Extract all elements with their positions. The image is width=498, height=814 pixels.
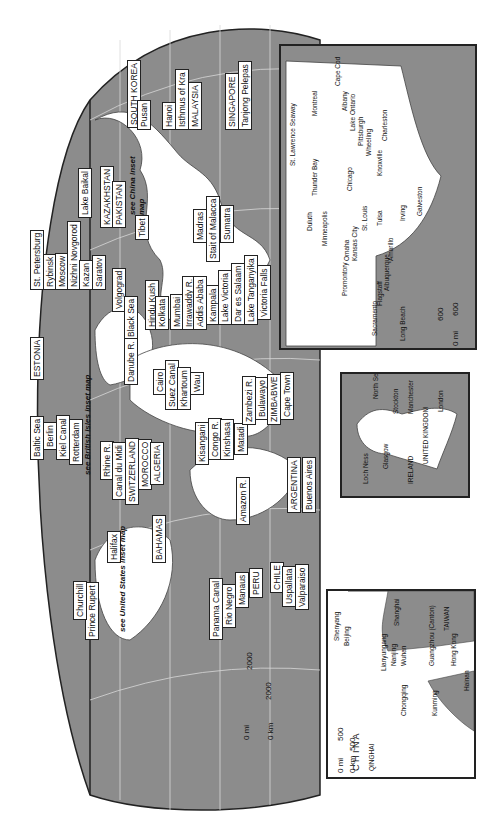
uk-label-stockton: Stockton bbox=[392, 389, 399, 414]
label-kiel-canal: Kiel Canal bbox=[56, 415, 70, 460]
label-algeria: ALGERIA bbox=[150, 442, 164, 485]
us-label-kansas-city: Kansas City bbox=[351, 226, 358, 261]
label-malaysia: MALAYSIA bbox=[188, 82, 202, 130]
china-label-shanghai: Shanghai bbox=[393, 599, 400, 626]
china-label-taiwan: TAIWAN bbox=[443, 606, 450, 631]
label-rotterdam: Rotterdam bbox=[69, 419, 83, 465]
china-label-shenyang: Shenyang bbox=[333, 612, 340, 641]
uk-inset-map: North Sea Stockton Manchester London UNI… bbox=[340, 372, 470, 498]
us-label-lake-ontario: Lake Ontario bbox=[349, 94, 356, 131]
us-scale-mi-value: 600 bbox=[436, 308, 445, 321]
label-cape-town: Cape Town bbox=[280, 372, 294, 420]
label-matadi: Matadi bbox=[234, 423, 248, 455]
label-victoria-falls: Victoria Falls bbox=[257, 266, 271, 321]
china-label-beijing: Beijing bbox=[343, 626, 350, 646]
us-label-montreal: Montreal bbox=[311, 91, 318, 116]
us-label-knoxville: Knoxville bbox=[376, 150, 383, 176]
label-kisangani: Kisangani bbox=[195, 422, 209, 465]
china-label-nanjing: Nanjing bbox=[390, 644, 397, 666]
label-canal-du-midi: Canal du Midi bbox=[112, 442, 126, 500]
us-label-charleston: Charleston bbox=[381, 110, 388, 141]
china-scale-mi-zero: 0 mi bbox=[336, 758, 345, 773]
label-lake-tanganyika: Lake Tanganyika bbox=[244, 255, 258, 325]
label-prince-rupert: Prince Rupert bbox=[85, 582, 99, 640]
us-label-st-lawrence: St. Lawrence Seaway bbox=[289, 103, 296, 166]
label-stait-of-malacca: Stait of Malacca bbox=[206, 196, 220, 262]
label-hanoi: Hanoi bbox=[162, 102, 176, 130]
uk-label-london: London bbox=[437, 390, 444, 412]
us-label-albuquerque: Albuquerque bbox=[383, 254, 390, 291]
scale-km-value: 2000 bbox=[264, 682, 273, 700]
uk-label-north-sea: North Sea bbox=[372, 372, 379, 399]
us-label-albany: Albany bbox=[341, 91, 348, 111]
label-wau: Wau bbox=[190, 372, 204, 395]
china-label-hong-kong: Hong Kong bbox=[450, 633, 457, 666]
label-pusan: Pusan bbox=[137, 100, 151, 130]
label-black-sea: Black Sea bbox=[124, 296, 138, 340]
label-kinshasa: Kinshasa bbox=[220, 419, 234, 460]
label-switzerland: SWITZERLAND bbox=[125, 438, 139, 505]
us-label-long-beach: Long Beach bbox=[399, 306, 406, 341]
us-label-wheeling: Wheeling bbox=[365, 129, 372, 156]
china-label-lianyungang: Lianyungang bbox=[380, 634, 387, 671]
label-tanjong-pelepas: Tanjong Pelepas bbox=[238, 61, 252, 130]
us-label-tulsa: Tulsa bbox=[376, 210, 383, 226]
us-label-irving: Irving bbox=[399, 205, 406, 221]
us-label-duluth: Duluth bbox=[306, 212, 313, 231]
note-china-inset: see China inset map bbox=[128, 155, 146, 215]
china-inset-map: Shenyang Beijing Shanghai TAIWAN Lianyun… bbox=[326, 589, 476, 779]
uk-label-glasgow: Glasgow bbox=[382, 444, 389, 469]
label-estonia: ESTONIA bbox=[30, 337, 44, 380]
label-uspallata: Uspallata bbox=[282, 566, 296, 607]
label-lake-baikal: Lake Baikal bbox=[78, 168, 92, 218]
us-label-thunder-bay: Thunder Bay bbox=[311, 159, 318, 196]
note-british-isles-inset: see British Isles inset map bbox=[83, 375, 92, 476]
china-label-guangzhou: Guangzhou (Canton) bbox=[428, 605, 435, 666]
label-bahamas: BAHAMAS bbox=[152, 515, 166, 563]
label-tibet: Tibet bbox=[135, 215, 149, 240]
us-label-pittsburgh: Pittsburgh bbox=[357, 117, 364, 146]
label-peru: PERU bbox=[249, 568, 263, 598]
us-label-chicago: Chicago bbox=[346, 167, 353, 191]
label-kazan: Kazan bbox=[79, 260, 93, 290]
label-rio-negro: Rio Negro bbox=[222, 584, 236, 628]
label-amazon: Amazon R. bbox=[236, 477, 250, 525]
uk-label-loch-ness: Loch Ness bbox=[362, 453, 369, 484]
note-united-states-inset: see United States inset map bbox=[118, 526, 127, 632]
label-buenos-aires: Buenos Aires bbox=[302, 457, 316, 513]
label-manaus: Manaus bbox=[235, 572, 249, 608]
label-addis-ababa: Addis Ababa bbox=[193, 276, 207, 330]
label-isthmus-of-kra: Isthmus of Kra bbox=[175, 69, 189, 130]
uk-label-united-kingdom: UNITED KINGDOM bbox=[422, 407, 429, 464]
china-label-chongqing: Chongqing bbox=[400, 685, 407, 716]
scale-km-zero: 0 km bbox=[266, 723, 275, 740]
uk-label-ireland: IRELAND bbox=[407, 456, 414, 484]
us-scale-mi-zero: 0 mi bbox=[451, 331, 460, 346]
china-label-kunming: Kunming bbox=[431, 690, 438, 716]
label-baltic-sea: Baltic Sea bbox=[30, 416, 44, 460]
label-pakistan: PAKISTAN bbox=[112, 181, 126, 228]
us-label-cape-cod: Cape Cod bbox=[334, 57, 341, 86]
us-scale-km-value: 600 bbox=[451, 303, 460, 316]
label-churchill: Churchill bbox=[73, 581, 87, 620]
label-dar-es-salaam: Dar es Salaam bbox=[231, 263, 245, 325]
label-saratov: Saratov bbox=[92, 255, 106, 290]
label-khartoum: Khartoum bbox=[177, 367, 191, 410]
us-label-st-louis: St. Louis bbox=[361, 206, 368, 231]
label-sumatra: Sumatra bbox=[220, 205, 234, 243]
label-st-petersburg: St. Petersburg bbox=[30, 230, 44, 290]
label-singapore: SINGAPORE bbox=[225, 73, 239, 130]
us-label-minneapolis: Minneapolis bbox=[321, 211, 328, 246]
label-zimbabwe: ZIMBABWE bbox=[267, 374, 281, 425]
label-panama-canal: Panama Canal bbox=[209, 578, 223, 640]
china-scale-mi-value: 500 bbox=[336, 728, 345, 741]
china-label-wuhan: Wuhan bbox=[400, 646, 407, 666]
label-kolkata: Kolkata bbox=[155, 296, 169, 330]
china-label-hainan: Hainan bbox=[463, 670, 470, 691]
us-inset-map: St. Lawrence Seaway Montreal Cape Cod Al… bbox=[279, 44, 477, 350]
us-label-promontory: Promontory bbox=[341, 262, 348, 296]
china-scale-km-value: 500 bbox=[348, 738, 357, 751]
label-danube: Danube R. bbox=[124, 338, 138, 385]
china-label-qinghai: QINGHAI bbox=[368, 744, 375, 771]
label-argentina: ARGENTINA bbox=[287, 457, 301, 513]
